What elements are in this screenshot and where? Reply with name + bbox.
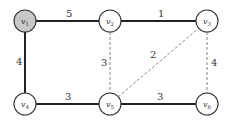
weight-v3-v6: 4: [211, 57, 217, 68]
node-v2: v2: [99, 10, 121, 32]
weight-v5-v3: 2: [150, 49, 156, 60]
weight-v5-v6: 3: [157, 91, 163, 102]
weight-v4-v5: 3: [65, 91, 71, 102]
weight-v2-v3: 1: [158, 8, 164, 19]
node-v3: v3: [196, 10, 218, 32]
weight-v2-v5: 3: [101, 57, 107, 68]
weight-v1-v4: 4: [16, 56, 22, 67]
node-v5: v5: [99, 93, 121, 115]
weight-v1-v2: 5: [66, 8, 72, 19]
node-v6: v6: [196, 93, 218, 115]
node-v4: v4: [14, 93, 36, 115]
node-v1: v1: [14, 10, 36, 32]
edge-v5-v3: [118, 28, 199, 97]
graph-diagram: 5 1 4 3 3 3 2 4 v1 v2 v3 v4 v5 v6: [0, 0, 232, 124]
